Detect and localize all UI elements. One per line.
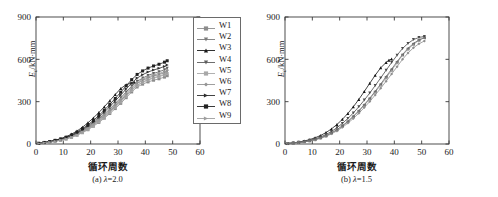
- series-W4: [37, 67, 168, 145]
- svg-text:900: 900: [18, 12, 32, 22]
- svg-text:40: 40: [141, 147, 151, 157]
- x-axis-label-b: 循环周数: [249, 159, 464, 173]
- y-axis-label-b: Ec/kN·mm: [276, 26, 290, 92]
- x-axis-label-a: 循环周数: [0, 159, 215, 173]
- legend-marker-icon: [196, 42, 216, 53]
- y-axis-subscript-a: c: [32, 69, 38, 72]
- caption-a-prefix: (a): [92, 174, 104, 184]
- svg-text:60: 60: [445, 147, 455, 157]
- legend-item-w7[interactable]: W7: [196, 87, 237, 98]
- svg-text:50: 50: [168, 147, 178, 157]
- svg-text:10: 10: [308, 147, 318, 157]
- caption-b-value: =1.5: [357, 174, 372, 184]
- legend-item-w3[interactable]: W3: [196, 42, 237, 53]
- legend-label: W1: [216, 20, 231, 31]
- svg-text:20: 20: [86, 147, 96, 157]
- series-W7: [37, 63, 168, 144]
- svg-text:0: 0: [276, 139, 281, 149]
- series-W12: [286, 58, 393, 145]
- legend-item-w2[interactable]: W2: [196, 31, 237, 42]
- svg-text:30: 30: [363, 147, 373, 157]
- caption-a-value: =2.0: [107, 174, 122, 184]
- legend-label: W8: [216, 98, 231, 109]
- svg-text:30: 30: [114, 147, 124, 157]
- svg-text:0: 0: [27, 139, 32, 149]
- caption-b: (b) λ=1.5: [249, 174, 464, 184]
- legend-item-w6[interactable]: W6: [196, 76, 237, 87]
- data-series-group: [286, 35, 426, 145]
- series-W3: [37, 81, 136, 145]
- legend-label: W3: [216, 42, 231, 53]
- legend-label: W9: [216, 110, 231, 121]
- legend-item-w5[interactable]: W5: [196, 65, 237, 76]
- y-axis-subscript-b: c: [281, 69, 287, 72]
- y-axis-label-a: Ec/kN·mm: [27, 26, 41, 92]
- svg-text:300: 300: [18, 97, 32, 107]
- legend-label: W5: [216, 65, 231, 76]
- legend-label: W2: [216, 31, 231, 42]
- svg-text:50: 50: [417, 147, 427, 157]
- svg-text:10: 10: [59, 147, 69, 157]
- legend-item-w1[interactable]: W1: [196, 20, 237, 31]
- svg-text:300: 300: [267, 97, 281, 107]
- legend-label: W6: [216, 76, 231, 87]
- figure-container: 01020304050600300600900 Ec/kN·mm 循环周数 (a…: [0, 0, 498, 197]
- caption-b-prefix: (b): [341, 174, 353, 184]
- legend-label: W7: [216, 87, 231, 98]
- legend-marker-icon: [196, 76, 216, 87]
- legend-label: W4: [216, 54, 231, 65]
- legend-a[interactable]: W1W2W3W4W5W6W7W8W9: [193, 17, 241, 124]
- svg-text:0: 0: [34, 147, 39, 157]
- svg-text:20: 20: [335, 147, 345, 157]
- legend-marker-icon: [196, 110, 216, 121]
- legend-marker-icon: [196, 87, 216, 98]
- svg-text:900: 900: [267, 12, 281, 22]
- legend-marker-icon: [196, 65, 216, 76]
- y-axis-symbol-b: E: [276, 72, 286, 77]
- y-axis-symbol-a: E: [27, 72, 37, 77]
- data-series-group: [37, 59, 168, 145]
- legend-marker-icon: [196, 54, 216, 65]
- legend-marker-icon: [196, 20, 216, 31]
- legend-item-w9[interactable]: W9: [196, 110, 237, 121]
- svg-text:60: 60: [196, 147, 206, 157]
- chart-panel-b: 01020304050600300600900 Ec/kN·mm 循环周数 (b…: [249, 0, 498, 197]
- svg-text:0: 0: [283, 147, 288, 157]
- svg-text:40: 40: [390, 147, 400, 157]
- legend-item-w8[interactable]: W8: [196, 98, 237, 109]
- y-axis-unit-b: /kN·mm: [276, 41, 286, 70]
- legend-item-w4[interactable]: W4: [196, 54, 237, 65]
- y-axis-unit-a: /kN·mm: [27, 41, 37, 70]
- legend-marker-icon: [196, 98, 216, 109]
- caption-a: (a) λ=2.0: [0, 174, 215, 184]
- chart-panel-a: 01020304050600300600900 Ec/kN·mm 循环周数 (a…: [0, 0, 249, 197]
- legend-marker-icon: [196, 31, 216, 42]
- series-W14: [286, 39, 426, 145]
